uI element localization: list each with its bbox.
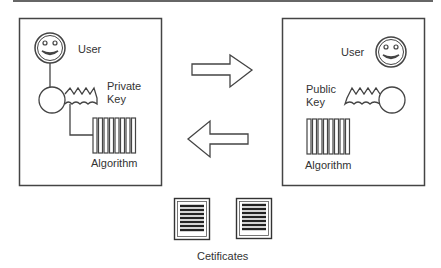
public-key-label-line1: Public xyxy=(306,83,336,96)
arrow-right-icon xyxy=(192,55,252,87)
left-user-smiley-icon xyxy=(35,33,65,87)
certificate-document-icon-1 xyxy=(175,199,210,240)
right-user-label: User xyxy=(341,46,364,59)
public-key-label-line2: Key xyxy=(306,96,325,109)
left-algorithm-label: Algorithm xyxy=(91,157,137,170)
right-algorithm-icon xyxy=(307,119,350,154)
right-user-smiley-icon xyxy=(376,37,406,67)
left-algorithm-icon xyxy=(93,118,136,153)
private-key-icon xyxy=(39,87,97,113)
left-user-label: User xyxy=(78,43,101,56)
certificates-label: Cetificates xyxy=(197,250,248,263)
public-key-icon xyxy=(345,87,405,113)
left-connector-line xyxy=(70,104,93,135)
right-algorithm-label: Algorithm xyxy=(305,159,351,172)
certificate-document-icon-2 xyxy=(237,199,272,239)
private-key-label-line2: Key xyxy=(107,93,126,106)
private-key-label-line1: Private xyxy=(107,80,141,93)
diagram-canvas xyxy=(0,0,441,268)
arrow-left-icon xyxy=(188,121,248,157)
